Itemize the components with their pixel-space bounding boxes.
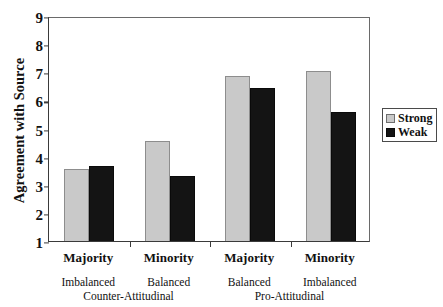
legend-label-strong: Strong xyxy=(398,112,432,124)
bar-series-container xyxy=(49,18,369,241)
legend-item-weak: Weak xyxy=(386,126,432,138)
y-tick-mark-1 xyxy=(44,242,49,243)
x-group-secondary-1: Imbalanced xyxy=(61,276,115,288)
bar-strong-group-1 xyxy=(64,169,89,241)
bar-strong-group-3 xyxy=(225,76,250,241)
x-group-primary-4: Minority xyxy=(303,251,357,265)
legend-swatch-strong-icon xyxy=(386,114,395,123)
x-tick-mark-2 xyxy=(210,241,211,247)
x-tick-mark-1 xyxy=(130,241,131,247)
bar-chart-figure: Agreement with Source 123456789 Majority… xyxy=(0,0,443,307)
x-group-primary-1: Majority xyxy=(61,251,115,265)
x-group-label-2: MinorityBalanced xyxy=(144,251,194,288)
x-group-label-1: MajorityImbalanced xyxy=(61,251,115,288)
x-condition-label-2: Pro-Attitudinal xyxy=(255,290,325,302)
plot-area: 123456789 xyxy=(48,17,370,242)
x-group-secondary-2: Balanced xyxy=(144,276,194,288)
y-axis-title: Agreement with Source xyxy=(11,26,28,236)
bar-weak-group-4 xyxy=(331,112,356,241)
bar-weak-group-1 xyxy=(89,166,114,241)
bar-weak-group-3 xyxy=(250,88,275,241)
bar-strong-group-4 xyxy=(306,71,331,241)
x-group-primary-2: Minority xyxy=(144,251,194,265)
x-group-primary-3: Majority xyxy=(224,251,274,265)
x-tick-mark-3 xyxy=(291,241,292,247)
bar-weak-group-2 xyxy=(170,176,195,241)
x-condition-label-1: Counter-Attitudinal xyxy=(83,290,173,302)
x-group-secondary-4: Imbalanced xyxy=(303,276,357,288)
x-group-label-4: MinorityImbalanced xyxy=(303,251,357,288)
legend-item-strong: Strong xyxy=(386,112,432,124)
chart-legend: Strong Weak xyxy=(382,108,437,142)
bar-strong-group-2 xyxy=(145,141,170,241)
x-group-label-3: MajorityBalanced xyxy=(224,251,274,288)
x-group-secondary-3: Balanced xyxy=(224,276,274,288)
legend-label-weak: Weak xyxy=(398,126,427,138)
legend-swatch-weak-icon xyxy=(386,128,395,137)
